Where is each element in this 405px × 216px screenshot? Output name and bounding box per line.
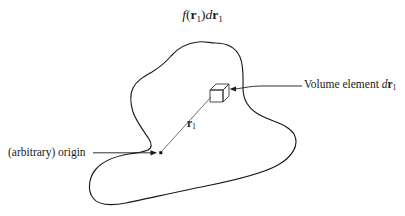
volume-element-subscript: 1 <box>393 83 397 92</box>
origin-label: (arbitrary) origin <box>8 147 86 159</box>
diagram-canvas <box>0 0 405 216</box>
title-subscript-2: 1 <box>218 14 223 24</box>
position-vector-label: r1 <box>187 118 196 131</box>
volume-element-cube <box>210 84 229 102</box>
volume-element-label: Volume element dr1 <box>304 79 396 92</box>
volume-element-text: Volume element <box>304 78 382 90</box>
volume-element-leader <box>230 86 303 92</box>
vector-subscript: 1 <box>192 122 196 131</box>
volume-element-figure: f(r1)dr1 Volume element dr1 (arbitrary) … <box>0 0 405 216</box>
figure-title-expression: f(r1)dr1 <box>0 8 405 24</box>
origin-point-dot <box>159 151 162 154</box>
